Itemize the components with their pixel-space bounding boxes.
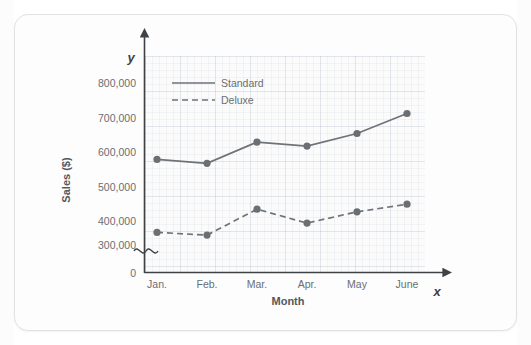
data-point-deluxe-jan	[153, 229, 160, 236]
data-point-standard-may	[353, 130, 360, 137]
y-tick-label-800000: 800,000	[98, 77, 136, 89]
chart-page: 800,000 700,000 600,000 500,000 400,000 …	[0, 0, 531, 345]
data-point-standard-jan	[153, 156, 160, 163]
x-tick-label-may: May	[347, 278, 368, 290]
x-axis-variable-label: x	[432, 284, 441, 299]
x-tick-label-feb: Feb.	[196, 278, 217, 290]
x-axis-title: Month	[272, 295, 305, 307]
data-point-standard-mar	[253, 139, 260, 146]
data-point-standard-apr	[303, 143, 310, 150]
legend-label-standard: Standard	[221, 77, 264, 89]
y-tick-label-300000: 300,000	[98, 239, 136, 251]
x-tick-label-mar: Mar.	[247, 278, 267, 290]
y-axis-title: Sales ($)	[60, 157, 72, 203]
x-tick-label-apr: Apr.	[298, 278, 317, 290]
data-point-deluxe-mar	[253, 206, 260, 213]
y-axis-variable-label: y	[126, 50, 135, 65]
y-tick-label-700000: 700,000	[98, 112, 136, 124]
data-point-standard-feb	[203, 160, 210, 167]
series-line-standard	[157, 114, 407, 164]
x-tick-label-jan: Jan.	[147, 278, 167, 290]
legend-label-deluxe: Deluxe	[221, 94, 254, 106]
x-tick-label-june: June	[396, 278, 419, 290]
y-axis-break-symbol	[134, 249, 158, 253]
line-chart: 800,000 700,000 600,000 500,000 400,000 …	[0, 0, 531, 345]
plot-series-layer	[153, 110, 410, 239]
data-point-deluxe-feb	[203, 232, 210, 239]
series-line-deluxe	[157, 204, 407, 235]
y-tick-label-400000: 400,000	[98, 215, 136, 227]
y-tick-label-500000: 500,000	[98, 181, 136, 193]
data-point-standard-june	[403, 110, 410, 117]
data-point-deluxe-apr	[303, 220, 310, 227]
y-tick-label-0: 0	[130, 267, 136, 279]
data-point-deluxe-may	[353, 208, 360, 215]
data-point-deluxe-june	[403, 201, 410, 208]
y-tick-label-600000: 600,000	[98, 146, 136, 158]
